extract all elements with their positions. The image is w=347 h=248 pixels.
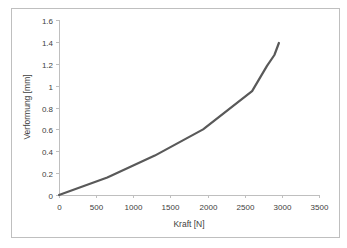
x-tick-label: 500 xyxy=(90,203,104,212)
x-tick-label: 3000 xyxy=(274,203,292,212)
y-axis-title: Verformung [mm] xyxy=(22,74,32,139)
x-tick-label: 0 xyxy=(57,203,62,212)
y-tick-label: 1.4 xyxy=(42,39,54,48)
y-tick-label: 1 xyxy=(49,83,54,92)
x-tick-label: 3500 xyxy=(311,203,329,212)
x-tick-label: 2500 xyxy=(237,203,255,212)
x-tick-label: 1500 xyxy=(162,203,180,212)
y-tick-label: 0.2 xyxy=(42,170,54,179)
chart-svg: 00.20.40.60.811.21.41.605001000150020002… xyxy=(0,0,347,248)
ticks: 00.20.40.60.811.21.41.605001000150020002… xyxy=(42,17,329,213)
y-tick-label: 1.2 xyxy=(42,61,54,70)
x-tick-label: 2000 xyxy=(200,203,218,212)
x-axis-title: Kraft [N] xyxy=(173,219,204,229)
axes xyxy=(59,20,320,196)
y-tick-label: 0 xyxy=(49,192,54,201)
y-tick-label: 0.8 xyxy=(42,105,54,114)
y-tick-label: 0.6 xyxy=(42,126,54,135)
y-tick-label: 0.4 xyxy=(42,148,54,157)
x-tick-label: 1000 xyxy=(125,203,143,212)
data-line xyxy=(59,43,279,195)
y-tick-label: 1.6 xyxy=(42,17,54,26)
